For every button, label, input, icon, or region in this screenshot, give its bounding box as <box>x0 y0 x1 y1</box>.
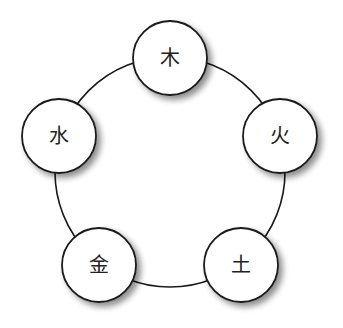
node-fire: 火 <box>243 99 317 173</box>
node-wood: 木 <box>133 21 207 95</box>
node-label-earth: 土 <box>231 253 251 277</box>
node-label-water: 水 <box>49 124 69 148</box>
node-water: 水 <box>22 99 96 173</box>
node-label-metal: 金 <box>89 253 109 277</box>
node-metal: 金 <box>62 228 136 302</box>
node-earth: 土 <box>204 228 278 302</box>
node-label-wood: 木 <box>160 46 180 70</box>
node-label-fire: 火 <box>270 124 290 148</box>
five-elements-diagram: 木 火 土 金 水 <box>0 0 343 328</box>
